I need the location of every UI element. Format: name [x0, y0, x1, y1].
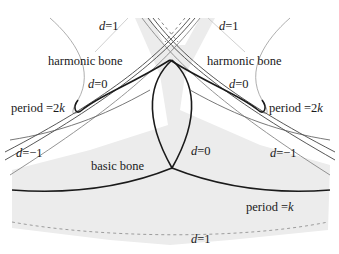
label-d1-top-left: d=1	[99, 20, 119, 33]
label-period-2k-right: period =2k	[269, 102, 323, 115]
bone-diagram: d=1 d=1 harmonic bone harmonic bone d=0 …	[0, 0, 339, 254]
label-basic-bone: basic bone	[91, 160, 144, 173]
label-d0-right: d=0	[229, 78, 249, 91]
label-d-minus1-right: d=−1	[270, 147, 297, 160]
label-d1-top-right: d=1	[219, 20, 239, 33]
label-d-minus1-left: d=−1	[16, 147, 43, 160]
label-period-2k-left: period =2k	[11, 102, 65, 115]
label-period-k: period =k	[246, 201, 294, 214]
label-d1-bottom: d=1	[191, 233, 211, 246]
diagram-canvas	[0, 0, 339, 254]
label-d0-left: d=0	[88, 78, 108, 91]
label-d0-center: d=0	[191, 145, 211, 158]
label-harmonic-bone-right: harmonic bone	[207, 55, 282, 68]
label-harmonic-bone-left: harmonic bone	[48, 55, 123, 68]
